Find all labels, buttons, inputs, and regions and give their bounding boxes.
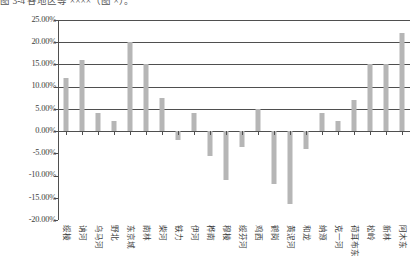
x-axis-tick	[354, 131, 355, 135]
x-axis-tick	[146, 131, 147, 135]
x-axis-tick	[162, 131, 163, 135]
x-axis-tick	[370, 131, 371, 135]
y-axis-labels: 25.00%20.00%15.00%10.00%5.00%0.00%-5.00%…	[0, 16, 56, 224]
x-axis-tick	[130, 131, 131, 135]
bar-slot	[314, 20, 330, 220]
bar[interactable]	[288, 131, 293, 204]
y-axis-tick-label: 0.00%	[4, 127, 56, 135]
bar[interactable]	[128, 42, 133, 131]
x-axis-category-label: 荷耳布东	[350, 225, 358, 257]
bar-slot	[106, 20, 122, 220]
plot-area	[58, 20, 410, 220]
x-label-slot: 克一河	[330, 224, 346, 264]
x-axis-category-label: 绥棱	[62, 225, 70, 241]
x-axis-category-label: 阿木东	[398, 225, 406, 249]
x-label-slot: 乌马河	[90, 224, 106, 264]
bar[interactable]	[96, 113, 101, 131]
bar[interactable]	[224, 131, 229, 180]
x-axis-category-label: 松岭	[366, 225, 374, 241]
x-label-slot: 绥棱	[58, 224, 74, 264]
bar[interactable]	[400, 33, 405, 131]
x-axis-category-label: 纳源	[318, 225, 326, 241]
y-axis-tick	[54, 220, 58, 221]
bar-slot	[154, 20, 170, 220]
bar[interactable]	[352, 100, 357, 131]
x-axis-category-label: 鸡西	[254, 225, 262, 241]
bar-slot	[378, 20, 394, 220]
x-axis-tick	[242, 131, 243, 135]
x-axis-category-label: 绥芬河	[238, 225, 246, 249]
x-label-slot: 松岭	[362, 224, 378, 264]
bar[interactable]	[144, 64, 149, 131]
x-label-slot: 柴河	[154, 224, 170, 264]
x-label-slot: 黄泥河	[282, 224, 298, 264]
bar-slot	[266, 20, 282, 220]
x-axis-category-label: 伊河	[190, 225, 198, 241]
x-axis-category-label: 乌马河	[94, 225, 102, 249]
x-axis-category-label: 穆棱	[222, 225, 230, 241]
bar[interactable]	[64, 78, 69, 131]
x-axis-labels: 绥棱讷河乌马河野北东京城南林柴河铁力伊河桦南穆棱绥芬河鸡西鹤岗黄泥河和龙纳源克一…	[58, 224, 410, 264]
y-axis-tick-label: 25.00%	[4, 16, 56, 24]
x-label-slot: 纳源	[314, 224, 330, 264]
bar-slot	[250, 20, 266, 220]
x-axis-category-label: 讷河	[78, 225, 86, 241]
x-label-slot: 荷耳布东	[346, 224, 362, 264]
bar-slot	[186, 20, 202, 220]
bar[interactable]	[80, 60, 85, 131]
bar[interactable]	[368, 64, 373, 131]
x-axis-category-label: 鹤岗	[270, 225, 278, 241]
y-axis-tick-label: 20.00%	[4, 38, 56, 46]
x-axis-tick	[210, 131, 211, 135]
x-axis-category-label: 和龙	[302, 225, 310, 241]
y-axis-tick-label: -15.00%	[4, 194, 56, 202]
bar[interactable]	[336, 121, 341, 131]
x-axis-tick	[258, 131, 259, 135]
bar-slot	[122, 20, 138, 220]
x-axis-tick	[98, 131, 99, 135]
bar[interactable]	[320, 113, 325, 131]
x-axis-tick	[386, 131, 387, 135]
x-label-slot: 讷河	[74, 224, 90, 264]
bar-slot	[138, 20, 154, 220]
x-axis-category-label: 新林	[382, 225, 390, 241]
x-label-slot: 铁力	[170, 224, 186, 264]
x-label-slot: 新林	[378, 224, 394, 264]
x-label-slot: 鸡西	[250, 224, 266, 264]
x-axis-tick	[114, 131, 115, 135]
x-axis-category-label: 黄泥河	[286, 225, 294, 249]
bar-slot	[170, 20, 186, 220]
x-label-slot: 绥芬河	[234, 224, 250, 264]
bar[interactable]	[256, 109, 261, 131]
x-axis-tick	[178, 131, 179, 135]
y-axis-tick-label: 5.00%	[4, 105, 56, 113]
x-axis-category-label: 桦南	[206, 225, 214, 241]
x-axis-category-label: 铁力	[174, 225, 182, 241]
bar[interactable]	[160, 98, 165, 131]
bar[interactable]	[112, 121, 117, 131]
bar-slot	[218, 20, 234, 220]
bar-slot	[282, 20, 298, 220]
bar-slot	[298, 20, 314, 220]
y-axis-tick-label: -5.00%	[4, 149, 56, 157]
bar-slot	[346, 20, 362, 220]
x-axis-tick	[194, 131, 195, 135]
x-axis-tick	[338, 131, 339, 135]
bar-slot	[90, 20, 106, 220]
x-axis-category-label: 野北	[110, 225, 118, 241]
figure-caption: 图 3-4 各地区等 ××××（图 ×）。	[0, 0, 240, 8]
x-axis-tick	[402, 131, 403, 135]
bar-slot	[234, 20, 250, 220]
x-label-slot: 和龙	[298, 224, 314, 264]
bar-slot	[330, 20, 346, 220]
bar-slot	[202, 20, 218, 220]
bar-slot	[58, 20, 74, 220]
bar[interactable]	[272, 131, 277, 184]
x-label-slot: 南林	[138, 224, 154, 264]
x-label-slot: 东京城	[122, 224, 138, 264]
x-axis-tick	[322, 131, 323, 135]
x-label-slot: 阿木东	[394, 224, 410, 264]
bar[interactable]	[192, 113, 197, 131]
bar[interactable]	[384, 64, 389, 131]
x-label-slot: 野北	[106, 224, 122, 264]
